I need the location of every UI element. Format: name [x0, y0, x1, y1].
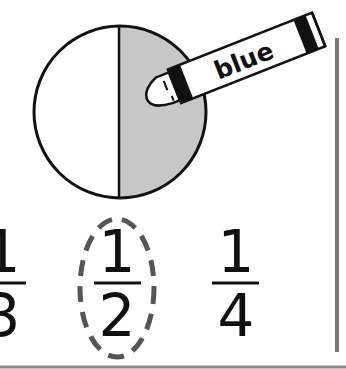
fraction-numerator: 1 [0, 218, 20, 286]
worksheet-figure: blue 1 3 1 2 1 4 [0, 0, 346, 369]
fraction-one-quarter: 1 4 [212, 218, 259, 350]
fraction-one-third: 1 3 [0, 218, 26, 350]
fraction-numerator: 1 [218, 218, 255, 286]
fraction-one-half: 1 2 [80, 218, 154, 357]
fraction-circle [34, 26, 206, 198]
fraction-denominator: 3 [0, 282, 20, 350]
fraction-denominator: 2 [99, 282, 136, 350]
shaded-half [120, 26, 206, 198]
fraction-denominator: 4 [218, 282, 255, 350]
fraction-numerator: 1 [99, 218, 136, 286]
